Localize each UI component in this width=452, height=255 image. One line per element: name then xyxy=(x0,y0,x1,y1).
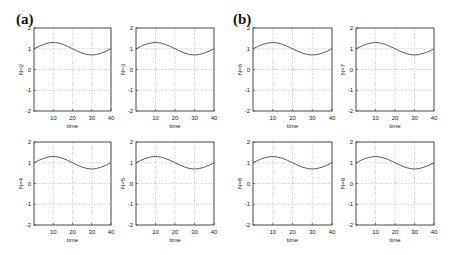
x-tick-label: 40 xyxy=(211,115,218,121)
x-tick-label: 30 xyxy=(191,229,198,235)
y-tick-label: -1 xyxy=(26,201,32,207)
y-tick-label: 1 xyxy=(130,160,134,166)
x-tick-label: 10 xyxy=(269,115,276,121)
x-tick-label: 20 xyxy=(172,229,179,235)
subplot-n7: 10203040-2-1012timeN=7 xyxy=(340,25,438,129)
x-tick-label: 30 xyxy=(411,229,418,235)
y-axis-label: N=9 xyxy=(340,177,346,189)
x-tick-label: 20 xyxy=(69,115,76,121)
y-tick-label: 2 xyxy=(247,139,251,145)
y-axis-label: N=2 xyxy=(18,63,24,75)
x-tick-label: 10 xyxy=(372,115,379,121)
subplot-n8: 10203040-2-1012timeN=8 xyxy=(237,139,336,243)
x-tick-label: 10 xyxy=(50,229,57,235)
y-tick-label: -1 xyxy=(348,201,354,207)
y-tick-label: -2 xyxy=(245,108,251,114)
y-tick-label: 1 xyxy=(28,160,32,166)
y-tick-label: 2 xyxy=(350,25,354,31)
y-tick-label: -2 xyxy=(348,222,354,228)
x-axis-label: time xyxy=(389,237,401,243)
x-axis-label: time xyxy=(67,123,79,129)
y-tick-label: -2 xyxy=(245,222,251,228)
y-tick-label: 0 xyxy=(130,181,134,187)
y-tick-label: -2 xyxy=(26,108,32,114)
x-tick-label: 40 xyxy=(108,229,115,235)
x-tick-label: 30 xyxy=(411,115,418,121)
y-tick-label: -2 xyxy=(128,108,134,114)
subplot-n9: 10203040-2-1012timeN=9 xyxy=(340,139,438,243)
x-axis-label: time xyxy=(169,123,181,129)
y-tick-label: 2 xyxy=(28,139,32,145)
y-tick-label: 1 xyxy=(247,46,251,52)
y-tick-label: -1 xyxy=(128,201,134,207)
x-tick-label: 10 xyxy=(269,229,276,235)
y-tick-label: 0 xyxy=(247,181,251,187)
x-tick-label: 20 xyxy=(289,229,296,235)
figure: (a) (b) 10203040-2-1012timeN=210203040-2… xyxy=(0,0,452,255)
y-tick-label: 2 xyxy=(130,25,134,31)
y-tick-label: -2 xyxy=(128,222,134,228)
x-axis-label: time xyxy=(67,237,79,243)
y-tick-label: 0 xyxy=(350,181,354,187)
y-tick-label: 0 xyxy=(28,181,32,187)
y-tick-label: -1 xyxy=(26,87,32,93)
subplot-n5: 10203040-2-1012timeN=5 xyxy=(120,139,218,243)
y-tick-label: 1 xyxy=(247,160,251,166)
y-tick-label: -1 xyxy=(128,87,134,93)
x-tick-label: 30 xyxy=(309,115,316,121)
x-tick-label: 10 xyxy=(152,115,159,121)
x-tick-label: 20 xyxy=(172,115,179,121)
y-axis-label: N=4 xyxy=(18,177,24,189)
y-tick-label: 0 xyxy=(130,67,134,73)
x-tick-label: 20 xyxy=(69,229,76,235)
y-tick-label: 0 xyxy=(28,67,32,73)
y-tick-label: -1 xyxy=(245,87,251,93)
y-axis-label: N=6 xyxy=(237,63,243,75)
y-tick-label: 1 xyxy=(350,160,354,166)
y-tick-label: 1 xyxy=(28,46,32,52)
y-tick-label: -1 xyxy=(348,87,354,93)
x-tick-label: 30 xyxy=(88,229,95,235)
x-tick-label: 20 xyxy=(392,229,399,235)
y-tick-label: -1 xyxy=(245,201,251,207)
y-tick-label: 2 xyxy=(130,139,134,145)
y-tick-label: 2 xyxy=(350,139,354,145)
x-tick-label: 30 xyxy=(88,115,95,121)
x-tick-label: 40 xyxy=(329,115,336,121)
x-tick-label: 10 xyxy=(50,115,57,121)
x-axis-label: time xyxy=(287,123,299,129)
subplot-n2: 10203040-2-1012timeN=2 xyxy=(18,25,115,129)
y-axis-label: N=5 xyxy=(120,177,126,189)
x-axis-label: time xyxy=(389,123,401,129)
x-axis-label: time xyxy=(287,237,299,243)
y-axis-label: N=3 xyxy=(120,63,126,75)
subplot-n4: 10203040-2-1012timeN=4 xyxy=(18,139,115,243)
x-tick-label: 10 xyxy=(152,229,159,235)
x-tick-label: 40 xyxy=(329,229,336,235)
x-tick-label: 40 xyxy=(108,115,115,121)
x-tick-label: 40 xyxy=(431,229,438,235)
x-tick-label: 10 xyxy=(372,229,379,235)
x-axis-label: time xyxy=(169,237,181,243)
y-tick-label: 1 xyxy=(130,46,134,52)
y-tick-label: 1 xyxy=(350,46,354,52)
x-tick-label: 30 xyxy=(191,115,198,121)
y-axis-label: N=7 xyxy=(340,63,346,75)
x-tick-label: 40 xyxy=(211,229,218,235)
y-tick-label: 0 xyxy=(350,67,354,73)
subplot-n3: 10203040-2-1012timeN=3 xyxy=(120,25,218,129)
y-tick-label: -2 xyxy=(26,222,32,228)
x-tick-label: 20 xyxy=(392,115,399,121)
y-tick-label: -2 xyxy=(348,108,354,114)
subplot-n6: 10203040-2-1012timeN=6 xyxy=(237,25,336,129)
y-tick-label: 0 xyxy=(247,67,251,73)
x-tick-label: 20 xyxy=(289,115,296,121)
x-tick-label: 30 xyxy=(309,229,316,235)
x-tick-label: 40 xyxy=(431,115,438,121)
y-axis-label: N=8 xyxy=(237,177,243,189)
